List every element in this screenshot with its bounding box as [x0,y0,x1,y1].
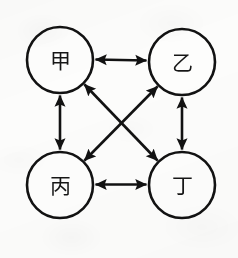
graph-svg: 甲 乙 丙 丁 [0,0,238,258]
node-jia-label: 甲 [50,49,71,73]
node-bing[interactable]: 丙 [27,152,93,218]
diagram-canvas: 甲 乙 丙 丁 [0,0,238,258]
node-yi-label: 乙 [172,51,193,75]
edge-jia-yi [96,60,147,61]
node-ding-label: 丁 [172,174,193,198]
node-ding[interactable]: 丁 [149,152,215,218]
node-bing-label: 丙 [50,174,71,198]
node-yi[interactable]: 乙 [149,29,215,95]
node-jia[interactable]: 甲 [27,27,93,93]
